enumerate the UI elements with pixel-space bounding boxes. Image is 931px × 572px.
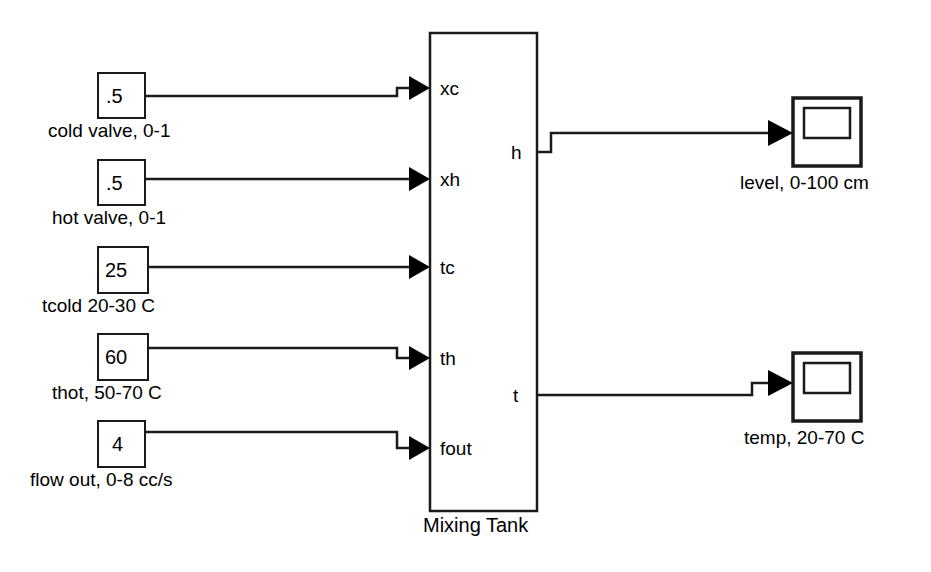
arrow-head-xc	[409, 76, 430, 100]
scope-block-level[interactable]	[793, 98, 861, 166]
constant-value-hot-valve: .5	[106, 173, 123, 193]
caption-cold-valve: cold valve, 0-1	[48, 120, 171, 142]
mixing-tank-caption: Mixing Tank	[423, 514, 528, 536]
signal-line-xc[interactable]	[145, 88, 413, 96]
port-label-h: h	[511, 143, 522, 162]
port-label-t: t	[513, 386, 518, 405]
arrow-head-fout	[409, 436, 430, 460]
caption-temp-scope: temp, 20-70 C	[744, 427, 864, 449]
port-label-xc: xc	[440, 79, 459, 98]
scope-block-temp[interactable]	[793, 353, 861, 421]
signal-line-h[interactable]	[537, 133, 776, 152]
constant-value-flow-out: 4	[112, 434, 123, 454]
signal-line-fout[interactable]	[145, 432, 413, 448]
caption-thot: thot, 50-70 C	[52, 382, 162, 404]
caption-level-scope: level, 0-100 cm	[740, 172, 869, 194]
signal-line-t[interactable]	[537, 383, 776, 395]
port-label-tc: tc	[440, 258, 455, 277]
caption-flow-out: flow out, 0-8 cc/s	[30, 469, 173, 491]
arrow-head-t	[768, 370, 793, 396]
signal-line-th[interactable]	[148, 348, 413, 358]
arrow-head-tc	[409, 255, 430, 279]
port-label-fout: fout	[440, 439, 472, 458]
constant-value-tcold: 25	[105, 260, 127, 280]
arrow-head-h	[768, 120, 793, 146]
constant-value-thot: 60	[105, 347, 127, 367]
caption-hot-valve: hot valve, 0-1	[52, 207, 166, 229]
arrow-head-th	[409, 346, 430, 370]
caption-tcold: tcold 20-30 C	[42, 295, 155, 317]
arrow-head-xh	[409, 167, 430, 191]
port-label-th: th	[440, 349, 456, 368]
port-label-xh: xh	[440, 170, 460, 189]
block-diagram-canvas: .5 .5 25 60 4 cold valve, 0-1 hot valve,…	[0, 0, 931, 572]
constant-value-cold-valve: .5	[106, 86, 123, 106]
